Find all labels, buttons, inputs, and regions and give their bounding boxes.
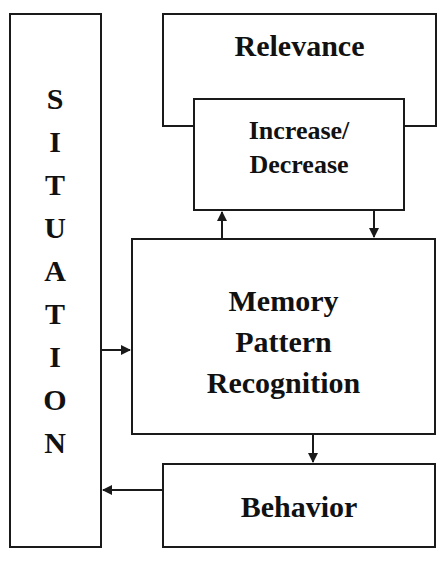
arrows [0,0,448,567]
